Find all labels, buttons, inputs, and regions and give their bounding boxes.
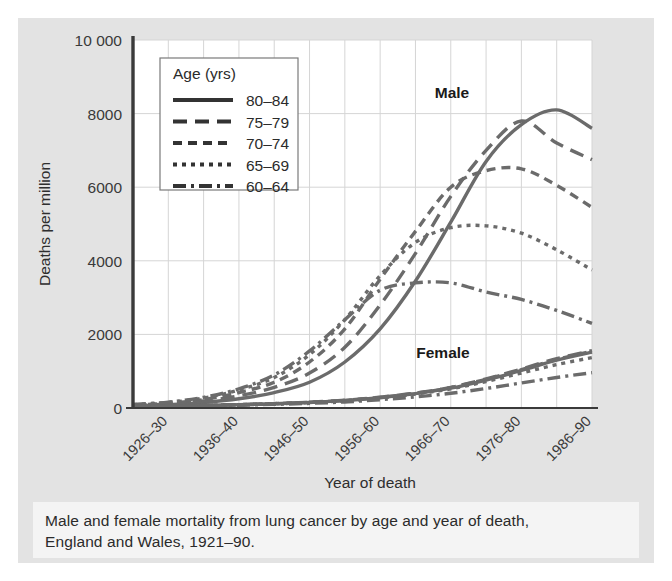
x-tick-label: 1976–80 (472, 413, 523, 464)
legend-entry-label: 60–64 (246, 178, 289, 195)
figure-panel: 0200040006000800010 000 1926–301936–4019… (18, 18, 654, 563)
figure-root: 0200040006000800010 000 1926–301936–4019… (0, 0, 672, 581)
y-tick-label: 4000 (88, 253, 123, 270)
x-tick-label: 1926–30 (119, 413, 170, 464)
y-tick-label: 6000 (88, 179, 123, 196)
legend-entry-label: 65–69 (246, 157, 289, 174)
female-group-label: Female (416, 344, 470, 361)
y-axis-title: Deaths per million (36, 162, 53, 286)
male-group-label: Male (435, 84, 470, 101)
x-tick-label: 1956–60 (331, 413, 382, 464)
legend-entry-label: 70–74 (246, 135, 289, 152)
x-tick-label: 1986–90 (543, 413, 594, 464)
figure-caption: Male and female mortality from lung canc… (33, 502, 639, 558)
chart-area: 0200040006000800010 000 1926–301936–4019… (18, 18, 654, 498)
x-tick-label: 1966–70 (402, 413, 453, 464)
x-axis-title: Year of death (324, 474, 416, 491)
legend-entry-label: 75–79 (246, 114, 289, 131)
legend-entry-label: 80–84 (246, 92, 289, 109)
caption-line-2: England and Wales, 1921–90. (45, 531, 627, 552)
lung-cancer-mortality-chart: 0200040006000800010 000 1926–301936–4019… (18, 18, 654, 498)
legend: Age (yrs) 80–8475–7970–7465–6960–64 (160, 58, 298, 195)
caption-line-1: Male and female mortality from lung canc… (45, 510, 627, 531)
y-tick-label: 2000 (88, 326, 123, 343)
y-tick-label: 8000 (88, 106, 123, 123)
legend-title: Age (yrs) (173, 65, 236, 82)
y-tick-label: 10 000 (75, 32, 123, 49)
x-axis-tick-labels: 1926–301936–401946–501956–601966–701976–… (119, 413, 594, 464)
y-axis-tick-labels: 0200040006000800010 000 (75, 32, 123, 417)
x-tick-label: 1946–50 (260, 413, 311, 464)
x-tick-label: 1936–40 (190, 413, 241, 464)
y-tick-label: 0 (113, 400, 122, 417)
